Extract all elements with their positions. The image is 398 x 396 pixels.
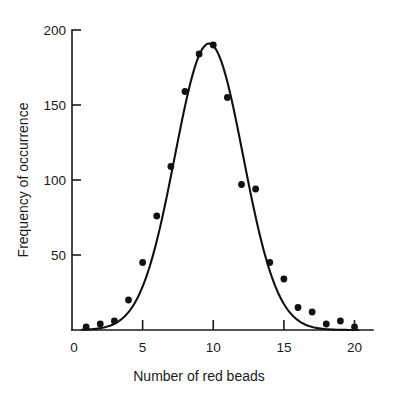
y-axis-ticks — [72, 30, 81, 255]
data-point — [125, 297, 132, 304]
x-axis-title: Number of red beads — [133, 368, 265, 384]
x-tick-label: 20 — [347, 340, 362, 355]
data-point — [196, 51, 203, 58]
data-point — [83, 324, 90, 331]
scatter-plot-svg: 50100150200 05101520 Number of red beads… — [0, 0, 398, 396]
data-point — [139, 259, 146, 266]
data-point — [351, 324, 358, 331]
y-tick-label: 200 — [43, 23, 66, 38]
chart-figure: 50100150200 05101520 Number of red beads… — [0, 0, 398, 396]
y-tick-label: 150 — [43, 98, 66, 113]
fitted-curve — [82, 44, 358, 330]
data-point — [323, 321, 330, 328]
x-tick-label: 5 — [139, 340, 147, 355]
data-point — [111, 318, 118, 325]
data-point — [266, 259, 273, 266]
x-tick-label: 0 — [70, 340, 78, 355]
data-point — [337, 318, 344, 325]
x-tick-label: 10 — [206, 340, 221, 355]
data-point — [280, 276, 287, 283]
data-point — [309, 309, 316, 316]
y-axis-tick-labels: 50100150200 — [43, 23, 66, 263]
y-axis-title: Frequency of occurrence — [15, 102, 31, 257]
data-point — [167, 163, 174, 170]
data-point — [224, 94, 231, 101]
y-tick-label: 100 — [43, 173, 66, 188]
data-point — [153, 213, 160, 220]
data-point — [182, 88, 189, 95]
y-tick-label: 50 — [51, 248, 66, 263]
x-axis-tick-labels: 05101520 — [70, 340, 362, 355]
data-point — [97, 321, 104, 328]
data-point — [238, 181, 245, 188]
x-tick-label: 15 — [276, 340, 291, 355]
data-point — [252, 186, 259, 193]
data-point — [210, 42, 217, 49]
data-points — [83, 42, 358, 331]
data-point — [295, 304, 302, 311]
